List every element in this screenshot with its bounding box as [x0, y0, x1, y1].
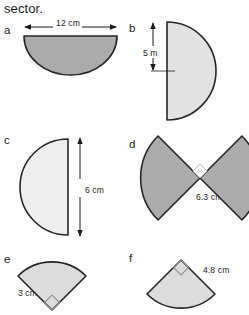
- shape-d-left-sector: [141, 136, 200, 220]
- figure-e: [0, 250, 124, 315]
- figure-d: [125, 130, 249, 230]
- worksheet-page: sector. a 12 cm b 5 m: [0, 0, 249, 315]
- figure-c: [0, 125, 124, 240]
- figure-b: [125, 18, 249, 128]
- shape-c-semicircle: [20, 139, 68, 235]
- shape-e-sector: [18, 262, 86, 310]
- page-heading: sector.: [4, 1, 43, 16]
- shape-f-sector: [147, 260, 215, 308]
- shape-a-semicircle: [24, 36, 117, 75]
- shape-d-right-sector: [200, 136, 249, 220]
- dimension-arrow-a: [24, 24, 117, 30]
- figure-a: [0, 20, 130, 100]
- dimension-arrow-c: [77, 137, 82, 237]
- figure-f: [125, 250, 249, 315]
